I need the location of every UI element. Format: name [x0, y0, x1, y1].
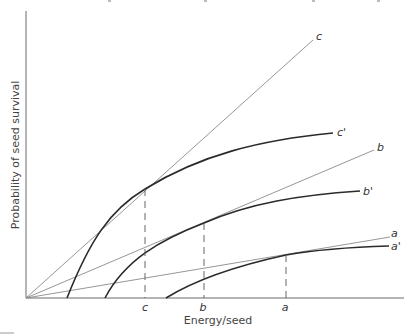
label-line-b: b: [377, 141, 384, 154]
curve-c-prime: [67, 133, 333, 298]
x-tick-c: c: [142, 301, 148, 314]
x-tick-b: b: [200, 301, 207, 314]
bottom-left-artifact: [0, 332, 14, 334]
energy-seed-diagram: c c' b b' a a' c b a Energy/seed Probabi…: [0, 0, 414, 336]
label-curve-a-prime: a': [391, 240, 401, 253]
curve-a-prime: [166, 246, 389, 298]
label-line-a: a: [391, 227, 398, 240]
curve-b-prime: [105, 191, 360, 298]
top-edge-fragments: [108, 0, 380, 2]
x-tick-a: a: [282, 301, 289, 314]
x-axis-label: Energy/seed: [184, 314, 252, 327]
label-line-c: c: [316, 30, 322, 43]
y-axis-label: Probability of seed survival: [9, 81, 22, 230]
label-curve-c-prime: c': [337, 126, 346, 139]
label-curve-b-prime: b': [363, 185, 373, 198]
